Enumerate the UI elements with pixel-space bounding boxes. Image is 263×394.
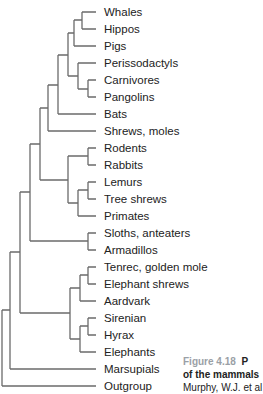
leaf-tenrec-golden-mole: Tenrec, golden mole [104, 260, 208, 274]
leaf-armadillos: Armadillos [104, 243, 158, 257]
leaf-perissodactyls: Perissodactyls [104, 56, 178, 70]
leaf-pangolins: Pangolins [104, 90, 155, 104]
caption-title-line2: of the mammals [183, 368, 262, 381]
leaf-elephant-shrews: Elephant shrews [104, 277, 189, 291]
leaf-tree-shrews: Tree shrews [104, 192, 167, 206]
leaf-outgroup: Outgroup [104, 379, 152, 393]
caption-citation: Murphy, W.J. et al [183, 381, 262, 394]
leaf-pigs: Pigs [104, 39, 126, 53]
leaf-hippos: Hippos [104, 22, 140, 36]
caption-title-start: P [241, 356, 248, 367]
leaf-elephants: Elephants [104, 345, 155, 359]
figure-caption: Figure 4.18 P of the mammals Murphy, W.J… [183, 355, 262, 394]
leaf-rabbits: Rabbits [104, 158, 143, 172]
leaf-rodents: Rodents [104, 141, 147, 155]
leaf-bats: Bats [104, 107, 127, 121]
leaf-sirenian: Sirenian [104, 311, 146, 325]
leaf-shrews-moles: Shrews, moles [104, 124, 179, 138]
leaf-whales: Whales [104, 5, 142, 19]
figure-label: Figure 4.18 [183, 356, 236, 367]
leaf-marsupials: Marsupials [104, 362, 160, 376]
leaf-hyrax: Hyrax [104, 328, 134, 342]
leaf-primates: Primates [104, 209, 149, 223]
leaf-aardvark: Aardvark [104, 294, 150, 308]
leaf-lemurs: Lemurs [104, 175, 142, 189]
leaf-carnivores: Carnivores [104, 73, 160, 87]
leaf-sloths-anteaters: Sloths, anteaters [104, 226, 190, 240]
